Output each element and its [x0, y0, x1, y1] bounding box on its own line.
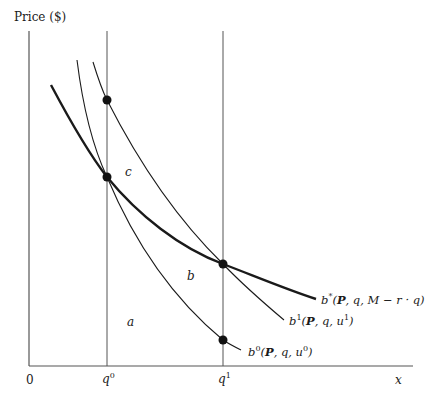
b-star-curve-label: b*(P, q, M − r · q)	[321, 293, 425, 307]
point-q1-bstar-b1	[219, 260, 228, 269]
point-q0-bstar-b0	[103, 173, 112, 182]
b-one-curve-label: b1(P, q, u1)	[289, 314, 354, 328]
region-b-label: b	[187, 270, 195, 282]
region-c-label: c	[125, 166, 132, 178]
x-axis-label: x	[395, 374, 402, 386]
b-star-curve	[51, 85, 316, 299]
q1-tick-label: q1	[218, 372, 231, 385]
point-q0-b1	[103, 96, 112, 105]
b-zero-curve	[77, 60, 241, 350]
b-zero-curve-label: b0(P, q, u0)	[248, 345, 313, 359]
y-axis-label: Price ($)	[14, 11, 66, 23]
point-q1-b0	[219, 336, 228, 345]
region-a-label: a	[127, 316, 134, 328]
q0-tick-label: q0	[102, 372, 115, 385]
origin-label: 0	[26, 374, 34, 386]
